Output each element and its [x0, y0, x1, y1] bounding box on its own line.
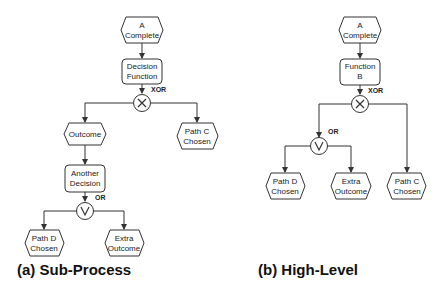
- or-connector-b: OR: [311, 128, 339, 155]
- event-outcome: Outcome: [64, 123, 106, 145]
- node-label: Complete: [343, 31, 378, 40]
- node-label: A: [139, 21, 145, 30]
- event-extra-outcome-b: Extra Outcome: [331, 173, 371, 199]
- panel-a: A Complete Decision Function XOR Outcome…: [25, 17, 218, 256]
- node-label: Path D: [32, 234, 57, 243]
- caption-a: (a) Sub-Process: [17, 261, 131, 278]
- node-label: Extra: [115, 234, 134, 243]
- xor-label: XOR: [151, 86, 166, 93]
- caption-b: (b) High-Level: [258, 261, 358, 278]
- xor-connector: XOR: [134, 86, 167, 112]
- event-a-complete: A Complete: [121, 17, 163, 43]
- event-path-d: Path D Chosen: [25, 230, 64, 256]
- xor-connector-b: XOR: [352, 87, 384, 113]
- node-label: Outcome: [108, 244, 141, 253]
- event-path-c-b: Path C Chosen: [387, 173, 426, 199]
- node-label: Path C: [185, 127, 210, 136]
- or-connector: OR: [77, 194, 106, 220]
- node-label: Complete: [125, 31, 160, 40]
- node-label: Chosen: [183, 137, 211, 146]
- node-label: Chosen: [30, 244, 58, 253]
- function-b: Function B: [340, 59, 380, 85]
- node-label: Chosen: [271, 187, 299, 196]
- event-a-complete-b: A Complete: [339, 17, 381, 43]
- node-label: Outcome: [69, 130, 102, 139]
- xor-label: XOR: [368, 87, 383, 94]
- node-label: Decision: [70, 179, 101, 188]
- diagram-canvas: A Complete Decision Function XOR Outcome…: [0, 0, 448, 293]
- or-label: OR: [328, 128, 339, 135]
- node-label: Function: [345, 62, 376, 71]
- function-another-decision: Another Decision: [65, 165, 105, 192]
- node-label: Extra: [342, 177, 361, 186]
- node-label: Function: [127, 72, 158, 81]
- node-label: Another: [71, 169, 99, 178]
- node-label: A: [357, 21, 363, 30]
- event-path-c: Path C Chosen: [177, 123, 218, 149]
- function-decision: Decision Function: [122, 59, 162, 84]
- panel-b: A Complete Function B XOR OR Path D Chos…: [266, 17, 426, 199]
- node-label: Path C: [395, 177, 420, 186]
- node-label: Decision: [127, 62, 158, 71]
- node-label: Chosen: [393, 187, 421, 196]
- node-label: Path D: [273, 177, 298, 186]
- event-extra-outcome: Extra Outcome: [105, 230, 144, 256]
- event-path-d-b: Path D Chosen: [266, 173, 305, 199]
- or-label: OR: [95, 194, 106, 201]
- node-label: Outcome: [335, 187, 368, 196]
- node-label: B: [357, 72, 362, 81]
